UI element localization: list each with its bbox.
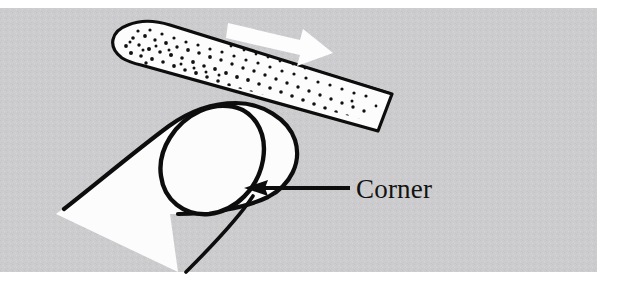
- illustration-page: Corner: [0, 0, 635, 292]
- corner-label: Corner: [356, 174, 432, 204]
- figure-canvas: Corner: [0, 0, 635, 292]
